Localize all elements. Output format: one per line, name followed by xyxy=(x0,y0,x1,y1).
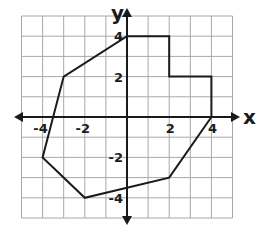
y-tick-label: 2 xyxy=(114,70,123,85)
x-tick-label: -2 xyxy=(76,121,90,136)
y-axis-label: y xyxy=(111,1,124,25)
x-tick-labels: -4-224 xyxy=(33,121,217,136)
y-axis-down-arrow-icon xyxy=(122,216,132,225)
y-tick-label: -2 xyxy=(109,150,123,165)
x-axis-right-arrow-icon xyxy=(231,112,240,122)
coordinate-plane: -4-224 42-2-4 x y xyxy=(0,0,265,236)
x-tick-label: 2 xyxy=(166,121,175,136)
y-tick-label: 4 xyxy=(114,29,123,44)
x-axis-label: x xyxy=(243,105,256,129)
axes xyxy=(14,8,240,225)
x-tick-label: -4 xyxy=(33,121,47,136)
x-axis-left-arrow-icon xyxy=(14,112,23,122)
x-tick-label: 4 xyxy=(208,121,217,136)
y-tick-label: -4 xyxy=(109,191,123,206)
